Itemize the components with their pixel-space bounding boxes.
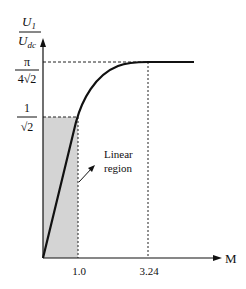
x-axis-arrow-icon (213, 255, 222, 261)
y-tick-pi-den: 4√2 (18, 72, 37, 86)
y-axis-arrow-icon (40, 38, 46, 47)
y-tick-pi-num: π (24, 55, 30, 69)
annotation-arrow (79, 168, 92, 182)
x-tick-3-24: 3.24 (139, 265, 159, 277)
x-axis-label: M (225, 251, 237, 266)
y-tick-root2-den: √2 (21, 120, 34, 134)
modulation-chart: U1 Udc π 4√2 1 √2 1.0 3.24 M Linear regi… (0, 0, 246, 289)
y-label-numerator: U1 (22, 14, 36, 31)
y-tick-root2-num: 1 (24, 101, 30, 115)
annotation-line1: Linear (104, 148, 133, 160)
annotation-line2: region (104, 162, 133, 174)
x-tick-1: 1.0 (72, 265, 86, 277)
y-label-denominator: Udc (18, 33, 36, 50)
